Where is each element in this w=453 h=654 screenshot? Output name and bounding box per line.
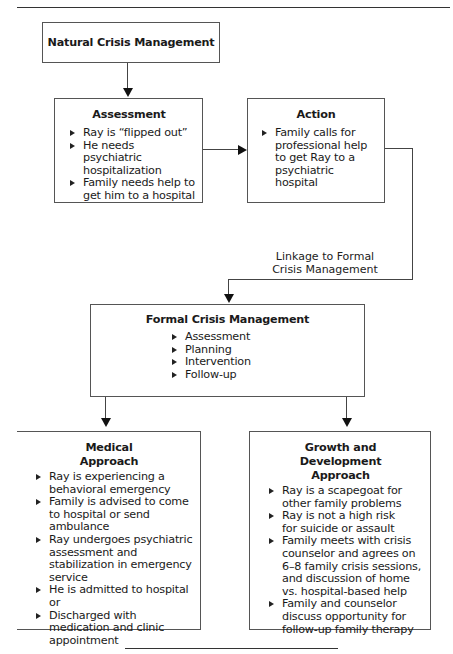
connector-formal-to-medical [105, 397, 106, 419]
connector-assessment-to-action [203, 149, 239, 150]
connector-natural-to-assessment [127, 63, 128, 89]
bullet-triangle-icon [36, 537, 41, 543]
bullet-triangle-icon [70, 143, 75, 149]
formal-list: Assessment Planning Intervention Follow-… [172, 331, 364, 381]
list-item: Family calls for professional help to ge… [262, 127, 378, 190]
list-item: Family and counselor discuss opportunity… [269, 598, 426, 636]
bullet-triangle-icon [70, 180, 75, 186]
arrow-down-icon [123, 88, 133, 97]
action-list: Family calls for professional help to ge… [262, 127, 378, 190]
bullet-triangle-icon [172, 372, 177, 378]
bullet-triangle-icon [36, 613, 41, 619]
connector-formal-to-growth [346, 397, 347, 419]
formal-title: Formal Crisis Management [91, 313, 364, 327]
medical-list: Ray is experiencing a behavioral emergen… [36, 471, 196, 647]
arrow-down-icon [224, 294, 234, 303]
medical-approach-box: Medical Approach Ray is experiencing a b… [17, 431, 201, 630]
connector-linkage-vertical [412, 148, 413, 280]
list-item: Follow-up [172, 369, 364, 382]
list-item: Ray is a scapegoat for other family prob… [269, 485, 426, 510]
bullet-triangle-icon [36, 499, 41, 505]
growth-development-approach-box: Growth and Development Approach Ray is a… [249, 431, 431, 630]
bullet-triangle-icon [269, 488, 274, 494]
growth-list: Ray is a scapegoat for other family prob… [269, 485, 426, 636]
connector-action-out [385, 148, 413, 149]
bottom-rule [125, 648, 338, 649]
medical-title: Medical Approach [36, 441, 196, 469]
list-item: Family meets with crisis counselor and a… [269, 535, 426, 598]
connector-linkage-horizontal [228, 279, 413, 280]
top-rule [17, 7, 450, 8]
list-item: He needs psychiatric hospitalization [70, 140, 196, 178]
bullet-triangle-icon [269, 538, 274, 544]
bullet-triangle-icon [36, 474, 41, 480]
assessment-box: Assessment Ray is “flipped out” He needs… [54, 98, 203, 203]
arrow-right-icon [238, 145, 247, 155]
list-item: Ray undergoes psychiatric assessment and… [36, 534, 196, 584]
bullet-triangle-icon [269, 513, 274, 519]
list-item: Ray is not a high risk for suicide or as… [269, 510, 426, 535]
bullet-triangle-icon [172, 334, 177, 340]
bullet-triangle-icon [269, 601, 274, 607]
bullet-triangle-icon [36, 587, 41, 593]
action-title: Action [262, 108, 378, 122]
growth-title: Growth and Development Approach [269, 441, 426, 483]
connector-linkage-drop [228, 279, 229, 295]
list-item: Discharged with medication and clinic ap… [36, 610, 196, 648]
bullet-triangle-icon [172, 347, 177, 353]
linkage-label: Linkage to Formal Crisis Management [255, 250, 395, 276]
arrow-down-icon [101, 418, 111, 427]
arrow-down-icon [342, 418, 352, 427]
bullet-triangle-icon [262, 130, 267, 136]
natural-title: Natural Crisis Management [48, 36, 215, 50]
natural-crisis-management-box: Natural Crisis Management [42, 22, 220, 63]
assessment-list: Ray is “flipped out” He needs psychiatri… [70, 127, 196, 203]
bullet-triangle-icon [70, 130, 75, 136]
list-item: He is admitted to hospital or [36, 584, 196, 609]
assessment-title: Assessment [70, 108, 196, 122]
list-item: Ray is experiencing a behavioral emergen… [36, 471, 196, 496]
action-box: Action Family calls for professional hel… [247, 98, 385, 203]
list-item: Family needs help to get him to a hospit… [70, 177, 196, 202]
formal-crisis-management-box: Formal Crisis Management Assessment Plan… [90, 304, 365, 397]
bullet-triangle-icon [172, 359, 177, 365]
list-item: Family is advised to come to hospital or… [36, 496, 196, 534]
